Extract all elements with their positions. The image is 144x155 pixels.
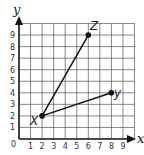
y-axis-arrow-icon [15,16,23,25]
y-axis-label: y [12,2,21,17]
y-tick-label: 7 [10,54,15,63]
x-tick-label: 2 [40,142,45,151]
y-tick-label: 4 [10,89,15,98]
tick-labels: 123456789123456789 [10,31,126,151]
point-label-x: X [29,114,39,128]
x-tick-label: 4 [63,142,68,151]
point-x [39,113,45,119]
y-tick-label: 6 [10,66,15,75]
y-tick-label: 3 [10,100,15,109]
x-axis-label: x [137,131,144,146]
x-tick-label: 7 [97,142,102,151]
y-tick-label: 2 [10,112,15,121]
point-label-y: y [113,86,122,100]
origin-label: 0 [11,140,16,149]
y-tick-label: 8 [10,43,15,52]
y-tick-label: 9 [10,31,15,40]
x-tick-label: 9 [120,142,125,151]
coordinate-plane: x y 0 123456789123456789 X Z y [0,0,144,155]
x-tick-label: 5 [74,142,79,151]
y-tick-label: 1 [10,123,15,132]
x-tick-label: 6 [86,142,91,151]
point-z [86,32,92,38]
y-tick-label: 5 [10,77,15,86]
x-tick-label: 8 [109,142,114,151]
point-label-z: Z [89,19,99,33]
x-tick-label: 1 [28,142,33,151]
x-tick-label: 3 [51,142,56,151]
